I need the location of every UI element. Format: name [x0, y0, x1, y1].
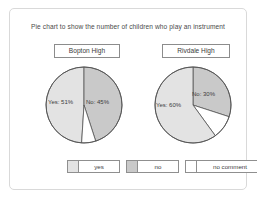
- pie-chart-bopton: Yes: 51% No: 45%: [45, 66, 123, 144]
- legend-label-yes: yes: [79, 161, 119, 172]
- school-label-rivdale: Rivdale High: [162, 44, 230, 58]
- legend-swatch-yes: [68, 161, 79, 172]
- pie-chart-rivdale: Yes: 60% No: 30%: [154, 66, 232, 144]
- pie-svg-bopton: [45, 66, 123, 144]
- pie-chart-figure: Pie chart to show the number of children…: [0, 0, 257, 200]
- school-label-bopton: Bopton High: [54, 44, 120, 58]
- legend-item-no-comment: no comment: [185, 160, 257, 173]
- legend-swatch-no-comment: [186, 161, 197, 172]
- legend-swatch-no: [127, 161, 138, 172]
- legend-item-yes: yes: [67, 160, 120, 173]
- page-title: Pie chart to show the number of children…: [10, 23, 246, 30]
- pie-slice-yes-bopton: [46, 67, 84, 143]
- legend: yes no no comment: [67, 160, 257, 173]
- legend-item-no: no: [126, 160, 179, 173]
- legend-label-no: no: [138, 161, 178, 172]
- pie-svg-rivdale: [154, 66, 232, 144]
- figure-frame: Pie chart to show the number of children…: [9, 8, 247, 190]
- legend-label-no-comment: no comment: [197, 161, 257, 172]
